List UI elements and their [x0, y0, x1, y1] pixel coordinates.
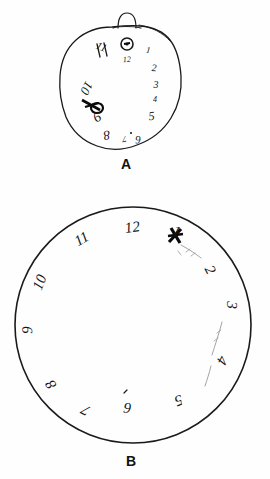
- clock-a-numeral-10: 10: [77, 79, 97, 98]
- clock-b-numeral-4: 4: [213, 353, 231, 368]
- clock-a-numeral-7: 7: [121, 134, 127, 145]
- clock-b-numeral-5: 5: [172, 392, 185, 410]
- clock-b-faint-marks: [178, 245, 201, 258]
- clock-a-numeral-12: 12: [123, 55, 132, 65]
- clock-b-numeral-9: 9: [19, 326, 35, 335]
- clock-a-numeral-3: 3: [153, 79, 159, 90]
- clock-drawing-figure-sheet: 121234567891011 A: [0, 0, 270, 479]
- clock-a-numeral-2: 2: [151, 62, 156, 73]
- panel-label-a: A: [121, 156, 131, 172]
- clock-b-numeral-8: 8: [42, 377, 60, 392]
- clock-b-dial-outline: [15, 207, 251, 443]
- clock-a-numerals: 121234567891011: [77, 39, 158, 146]
- clock-b-group: 121234567891011 B: [15, 207, 251, 469]
- clock-b-numeral-12: 12: [124, 218, 142, 236]
- clock-a-numeral-1: 1: [146, 45, 152, 55]
- clock-a-numeral-8: 8: [102, 127, 111, 143]
- clock-a-group: 121234567891011 A: [60, 13, 181, 172]
- clock-b-numeral-10: 10: [29, 272, 50, 292]
- clock-b-numeral-7: 7: [77, 401, 92, 419]
- clock-b-numeral-6: 6: [122, 400, 132, 417]
- clock-a-stray-stroke: [139, 25, 170, 41]
- clock-b-numerals: 121234567891011: [19, 218, 240, 419]
- clock-b-numeral-11: 11: [71, 228, 91, 249]
- clock-a-tick-dot: [130, 132, 132, 134]
- clock-a-hub-dot: [125, 42, 128, 45]
- figure-canvas: 121234567891011 A: [0, 0, 270, 479]
- clock-a-numeral-6: 6: [135, 134, 141, 146]
- panel-label-b: B: [126, 453, 136, 469]
- clock-b-tick-near-six: [124, 390, 127, 393]
- clock-a-numeral-5: 5: [148, 109, 155, 124]
- clock-b-numeral-2: 2: [202, 263, 220, 278]
- clock-b-numeral-3: 3: [224, 300, 240, 309]
- clock-a-numeral-4: 4: [153, 95, 157, 104]
